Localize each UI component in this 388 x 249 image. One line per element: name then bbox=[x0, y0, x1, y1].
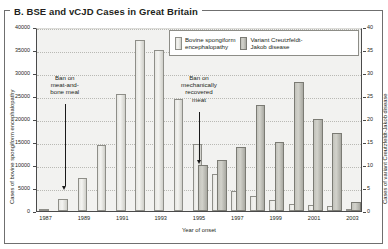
bar-bse bbox=[174, 99, 184, 211]
y-axis-left-tick-mark bbox=[33, 97, 36, 98]
chart-annotation: Ban on meat-and- bone meal bbox=[39, 74, 91, 96]
bar-group bbox=[75, 29, 94, 211]
y-axis-right-tick-label: 25 bbox=[367, 94, 373, 99]
legend-item-vcjd: Variant Creutzfeldt- Jakob disease bbox=[240, 36, 302, 51]
x-axis-tick-label: 2001 bbox=[302, 216, 326, 222]
bar-group bbox=[286, 29, 305, 211]
y-axis-right-tick-mark bbox=[363, 51, 366, 52]
bar-vcjd bbox=[256, 105, 266, 211]
bar-group bbox=[267, 29, 286, 211]
y-axis-right-tick-label: 5 bbox=[367, 186, 370, 191]
bar-bse bbox=[58, 199, 68, 211]
bar-vcjd bbox=[294, 82, 304, 211]
legend-swatch-vcjd bbox=[240, 37, 247, 50]
bar-group bbox=[171, 29, 190, 211]
y-axis-right-tick-label: 30 bbox=[367, 71, 373, 76]
chart-annotation-label: Ban on meat-and- bone meal bbox=[39, 74, 91, 96]
chart-annotation: Ban on mechanically recovered meat bbox=[169, 74, 229, 103]
bar-vcjd bbox=[275, 142, 285, 211]
bar-group bbox=[37, 29, 56, 211]
bar-group bbox=[152, 29, 171, 211]
legend-label-vcjd: Variant Creutzfeldt- Jakob disease bbox=[250, 36, 302, 51]
bar-vcjd bbox=[332, 133, 342, 211]
y-axis-right-tick-mark bbox=[363, 212, 366, 213]
y-axis-left-tick-label: 40000 bbox=[0, 25, 30, 30]
x-axis-tick-label: 1991 bbox=[110, 216, 134, 222]
y-axis-left-tick-label: 15000 bbox=[0, 140, 30, 145]
bar-bse bbox=[78, 178, 88, 211]
y-axis-right-tick-mark bbox=[363, 97, 366, 98]
bar-vcjd bbox=[313, 119, 323, 211]
legend-swatch-bse bbox=[175, 37, 182, 50]
bar-vcjd bbox=[351, 202, 361, 211]
y-axis-right-title: Cases of variant Creutzfeldt-Jakob disea… bbox=[382, 93, 388, 204]
bar-bse bbox=[135, 40, 145, 211]
y-axis-left-tick-label: 20000 bbox=[0, 117, 30, 122]
bar-vcjd bbox=[198, 165, 208, 211]
bar-bse bbox=[39, 209, 49, 211]
y-axis-right-tick-label: 15 bbox=[367, 140, 373, 145]
x-axis-tick-label: 1993 bbox=[149, 216, 173, 222]
y-axis-right-tick-label: 10 bbox=[367, 163, 373, 168]
y-axis-right-tick-mark bbox=[363, 189, 366, 190]
x-axis-tick-label: 1987 bbox=[34, 216, 58, 222]
bar-group bbox=[133, 29, 152, 211]
bar-vcjd bbox=[217, 160, 227, 211]
bar-bse bbox=[97, 145, 107, 211]
bar-group bbox=[248, 29, 267, 211]
y-axis-left-tick-mark bbox=[33, 120, 36, 121]
figure-panel: B. BSE and vCJD Cases in Great Britain C… bbox=[0, 0, 388, 249]
bar-bse bbox=[154, 50, 164, 211]
figure-title: B. BSE and vCJD Cases in Great Britain bbox=[14, 6, 198, 17]
bar-group bbox=[229, 29, 248, 211]
x-axis-title: Year of onset bbox=[173, 227, 225, 233]
y-axis-left-tick-label: 10000 bbox=[0, 163, 30, 168]
figure-title-container: B. BSE and vCJD Cases in Great Britain bbox=[10, 4, 202, 18]
x-axis-tick-label: 1995 bbox=[187, 216, 211, 222]
annotation-arrow-shaft bbox=[199, 112, 200, 160]
y-axis-right-tick-mark bbox=[363, 166, 366, 167]
y-axis-left-tick-mark bbox=[33, 51, 36, 52]
annotation-arrow-head bbox=[62, 186, 66, 190]
bar-group bbox=[305, 29, 324, 211]
annotation-arrow-shaft bbox=[65, 104, 66, 186]
bar-group bbox=[95, 29, 114, 211]
y-axis-right-tick-label: 20 bbox=[367, 117, 373, 122]
y-axis-right-tick-mark bbox=[363, 120, 366, 121]
legend-label-bse: Bovine spongiform encephalopathy bbox=[185, 36, 235, 51]
y-axis-left-tick-mark bbox=[33, 143, 36, 144]
bar-group bbox=[210, 29, 229, 211]
bar-vcjd bbox=[236, 147, 246, 211]
y-axis-right-tick-label: 35 bbox=[367, 48, 373, 53]
y-axis-left-tick-mark bbox=[33, 166, 36, 167]
y-axis-left-tick-mark bbox=[33, 212, 36, 213]
chart-annotation-label: Ban on mechanically recovered meat bbox=[169, 74, 229, 103]
y-axis-left-tick-label: 25000 bbox=[0, 94, 30, 99]
bar-group bbox=[344, 29, 363, 211]
y-axis-right-tick-label: 40 bbox=[367, 25, 373, 30]
annotation-arrow-head bbox=[197, 160, 201, 164]
y-axis-left-tick-mark bbox=[33, 74, 36, 75]
bar-group bbox=[114, 29, 133, 211]
y-axis-right-tick-mark bbox=[363, 143, 366, 144]
y-axis-left-tick-label: 5000 bbox=[0, 186, 30, 191]
bar-group bbox=[325, 29, 344, 211]
y-axis-left-tick-label: 0 bbox=[0, 209, 30, 214]
y-axis-right-tick-mark bbox=[363, 74, 366, 75]
x-axis-tick-label: 1997 bbox=[225, 216, 249, 222]
y-axis-left-tick-mark bbox=[33, 28, 36, 29]
x-axis-tick-label: 1989 bbox=[72, 216, 96, 222]
bar-bse bbox=[116, 94, 126, 211]
y-axis-right-tick-label: 0 bbox=[367, 209, 370, 214]
y-axis-left-tick-mark bbox=[33, 189, 36, 190]
x-axis-tick-label: 2003 bbox=[340, 216, 364, 222]
chart-legend: Bovine spongiform encephalopathy Variant… bbox=[169, 30, 359, 56]
y-axis-right-tick-mark bbox=[363, 28, 366, 29]
bar-group bbox=[56, 29, 75, 211]
x-axis-tick-label: 1999 bbox=[264, 216, 288, 222]
y-axis-left-tick-label: 30000 bbox=[0, 71, 30, 76]
y-axis-left-tick-label: 35000 bbox=[0, 48, 30, 53]
legend-item-bse: Bovine spongiform encephalopathy bbox=[175, 36, 235, 51]
